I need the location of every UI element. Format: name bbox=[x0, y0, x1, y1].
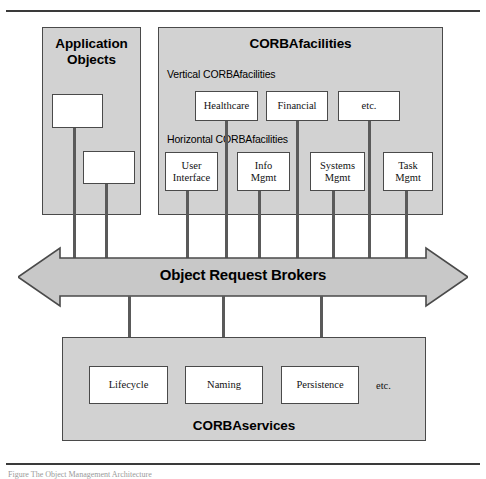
vertical-facility-box-healthcare[interactable]: Healthcare bbox=[195, 91, 258, 121]
service-box-lifecycle[interactable]: Lifecycle bbox=[89, 366, 168, 404]
horizontal-facility-user-interface-line2: Interface bbox=[173, 172, 210, 184]
vertical-facility-financial-label: Financial bbox=[277, 100, 316, 112]
horizontal-facility-box-user-interface[interactable]: User Interface bbox=[165, 152, 218, 191]
connector-app-object-1 bbox=[73, 128, 76, 258]
application-objects-title-line1: Application bbox=[55, 36, 127, 51]
service-box-naming[interactable]: Naming bbox=[185, 366, 263, 404]
vertical-facility-etc-label: etc. bbox=[362, 100, 377, 112]
horizontal-facility-systems-mgmt-line2: Mgmt bbox=[325, 172, 351, 184]
corbaservices-title-label: CORBAservices bbox=[193, 418, 295, 433]
connector-vertical-etc bbox=[368, 121, 371, 258]
horizontal-facility-info-mgmt-line1: Info bbox=[255, 160, 273, 172]
horizontal-facility-info-mgmt-line2: Mgmt bbox=[251, 172, 277, 184]
oma-architecture-figure: Application Objects CORBAfacilities Vert… bbox=[0, 0, 486, 479]
corbaservices-etc-label: etc. bbox=[376, 380, 391, 391]
corbafacilities-title-label: CORBAfacilities bbox=[249, 36, 351, 51]
object-request-brokers-arrow bbox=[18, 246, 468, 308]
vertical-facility-box-etc[interactable]: etc. bbox=[338, 91, 400, 121]
horizontal-facility-user-interface-line1: User bbox=[182, 160, 202, 172]
figure-caption: Figure The Object Management Architectur… bbox=[8, 470, 152, 479]
application-object-box-1[interactable] bbox=[52, 94, 103, 128]
connector-vertical-financial bbox=[296, 121, 299, 258]
horizontal-facility-systems-mgmt-line1: Systems bbox=[320, 160, 355, 172]
horizontal-facility-task-mgmt-line2: Mgmt bbox=[395, 172, 421, 184]
service-naming-label: Naming bbox=[207, 379, 241, 391]
application-objects-title-line2: Objects bbox=[67, 52, 116, 67]
corbafacilities-title: CORBAfacilities bbox=[158, 36, 443, 52]
vertical-corbafacilities-label: Vertical CORBAfacilities bbox=[167, 68, 275, 80]
bottom-rule bbox=[6, 463, 480, 465]
service-box-persistence[interactable]: Persistence bbox=[281, 366, 359, 404]
application-objects-title: Application Objects bbox=[42, 36, 141, 68]
horizontal-facility-box-info-mgmt[interactable]: Info Mgmt bbox=[237, 152, 290, 191]
horizontal-facility-task-mgmt-line1: Task bbox=[398, 160, 418, 172]
application-object-box-2[interactable] bbox=[83, 151, 135, 184]
corbaservices-title: CORBAservices bbox=[62, 418, 426, 434]
horizontal-facility-box-systems-mgmt[interactable]: Systems Mgmt bbox=[310, 152, 365, 191]
vertical-facility-box-financial[interactable]: Financial bbox=[266, 91, 328, 121]
horizontal-facility-box-task-mgmt[interactable]: Task Mgmt bbox=[383, 152, 433, 191]
service-lifecycle-label: Lifecycle bbox=[109, 379, 149, 391]
service-persistence-label: Persistence bbox=[296, 379, 343, 391]
connector-vertical-healthcare bbox=[225, 121, 228, 258]
top-rule bbox=[6, 10, 480, 12]
vertical-facility-healthcare-label: Healthcare bbox=[204, 100, 249, 112]
